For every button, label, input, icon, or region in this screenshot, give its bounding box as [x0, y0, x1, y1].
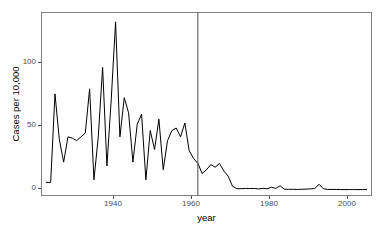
y-tick-mark-0 [38, 188, 41, 189]
chart-figure: 100 50 0 Cases per 10,000 1940 1960 1980… [0, 0, 387, 237]
x-axis-label: year [41, 212, 372, 224]
x-tick-label-1960: 1960 [171, 199, 211, 209]
plot-area-svg [42, 13, 371, 195]
x-tick-label-1980: 1980 [249, 199, 289, 209]
y-axis-label: Cases per 10,000 [9, 12, 23, 196]
y-tick-mark-100 [38, 62, 41, 63]
x-tick-label-2000: 2000 [327, 199, 367, 209]
x-tick-labels: 1940 1960 1980 2000 [0, 199, 387, 211]
plot-panel [41, 12, 372, 196]
incidence-line [46, 22, 366, 190]
y-tick-mark-50 [38, 125, 41, 126]
x-tick-label-1940: 1940 [93, 199, 133, 209]
